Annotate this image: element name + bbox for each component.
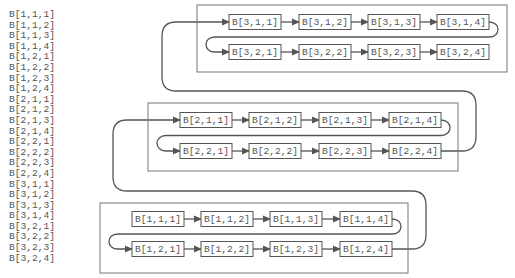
node-label: B[2,2,3] — [322, 146, 368, 157]
node-box: B[1,1,4] — [340, 212, 392, 227]
node-label: B[2,2,4] — [392, 146, 438, 157]
node-label: B[1,1,1] — [135, 214, 181, 225]
node-box: B[1,2,2] — [201, 242, 253, 257]
node-label: B[3,2,3] — [371, 47, 417, 58]
node-box: B[1,1,3] — [270, 212, 322, 227]
node-box: B[3,1,1] — [229, 15, 281, 30]
node-box: B[2,2,3] — [319, 144, 371, 159]
node-label: B[2,1,3] — [322, 115, 368, 126]
node-box: B[2,2,2] — [249, 144, 301, 159]
node-label: B[3,1,4] — [440, 17, 486, 28]
node-label: B[1,1,2] — [204, 214, 250, 225]
node-box: B[3,1,4] — [437, 15, 489, 30]
node-box: B[3,1,3] — [368, 15, 420, 30]
node-box: B[1,2,1] — [132, 242, 184, 257]
node-label: B[3,2,1] — [232, 47, 278, 58]
node-box: B[1,1,2] — [201, 212, 253, 227]
node-label: B[1,2,1] — [135, 244, 181, 255]
node-label: B[1,2,3] — [273, 244, 319, 255]
memory-layout-diagram: B[3,1,1]B[3,1,2]B[3,1,3]B[3,1,4]B[3,2,1]… — [0, 0, 515, 278]
node-box: B[2,1,2] — [249, 113, 301, 128]
node-label: B[1,2,4] — [343, 244, 389, 255]
node-label: B[3,1,3] — [371, 17, 417, 28]
node-box: B[3,2,4] — [437, 45, 489, 60]
group-link-arrow — [162, 22, 476, 151]
node-box: B[2,1,1] — [180, 113, 232, 128]
node-box: B[2,1,3] — [319, 113, 371, 128]
node-label: B[1,1,3] — [273, 214, 319, 225]
node-box: B[2,2,1] — [180, 144, 232, 159]
node-box: B[2,1,4] — [389, 113, 441, 128]
node-label: B[2,1,4] — [392, 115, 438, 126]
node-box: B[2,2,4] — [389, 144, 441, 159]
node-box: B[1,2,4] — [340, 242, 392, 257]
node-box: B[3,2,3] — [368, 45, 420, 60]
node-label: B[2,1,1] — [183, 115, 229, 126]
node-label: B[1,1,4] — [343, 214, 389, 225]
node-label: B[2,1,2] — [252, 115, 298, 126]
node-label: B[2,2,2] — [252, 146, 298, 157]
node-label: B[1,2,2] — [204, 244, 250, 255]
node-label: B[3,2,2] — [302, 47, 348, 58]
node-label: B[3,1,1] — [232, 17, 278, 28]
node-box: B[1,1,1] — [132, 212, 184, 227]
node-box: B[3,1,2] — [299, 15, 351, 30]
node-label: B[3,1,2] — [302, 17, 348, 28]
group-link-arrow — [113, 120, 426, 249]
node-box: B[1,2,3] — [270, 242, 322, 257]
node-label: B[3,2,4] — [440, 47, 486, 58]
node-box: B[3,2,2] — [299, 45, 351, 60]
node-box: B[3,2,1] — [229, 45, 281, 60]
node-label: B[2,2,1] — [183, 146, 229, 157]
